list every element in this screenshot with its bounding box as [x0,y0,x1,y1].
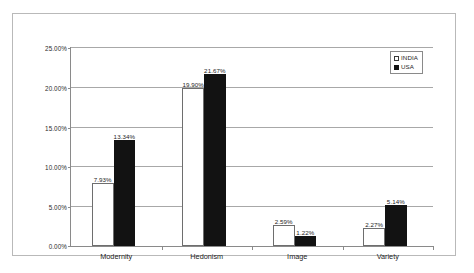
bar-usa-variety[interactable]: 5.14% [385,205,407,246]
ytick-label-5: 5.00% [49,204,67,211]
bars-layer: 7.93% 13.34% Modernity 19.90% 21.67% Hed… [71,47,433,246]
bar-india-modernity[interactable]: 7.93% [92,183,114,246]
ytick-label-20: 20.00% [45,84,67,91]
ytick-mark-0 [68,246,71,247]
xtick-mark-image [343,246,344,250]
legend-item-india[interactable]: INDIA [394,55,418,61]
ytick-label-25: 25.00% [45,45,67,52]
legend-swatch-usa-icon [394,65,399,70]
bar-india-image[interactable]: 2.59% [273,225,295,246]
bar-label-usa-image: 1.22% [296,229,314,236]
ytick-label-0: 0.00% [49,243,67,250]
legend-item-usa[interactable]: USA [394,64,418,70]
bar-india-hedonism[interactable]: 19.90% [182,88,204,246]
bar-group-hedonism: 19.90% 21.67% Hedonism [162,47,253,246]
bar-group-image: 2.59% 1.22% Image [252,47,343,246]
xtick-label-image: Image [287,252,307,261]
bar-usa-modernity[interactable]: 13.34% [114,140,136,246]
bar-label-usa-modernity: 13.34% [114,133,136,140]
xtick-label-variety: Variety [377,252,399,261]
bar-label-india-modernity: 7.93% [94,176,112,183]
bar-label-india-hedonism: 19.90% [182,81,204,88]
bar-label-india-variety: 2.27% [365,221,383,228]
bar-india-variety[interactable]: 2.27% [363,228,385,246]
bar-usa-hedonism[interactable]: 21.67% [204,74,226,246]
chart-frame: 25.00% 20.00% 15.00% 10.00% 5.00% 0.00% [12,13,456,256]
ytick-label-10: 10.00% [45,164,67,171]
bar-label-usa-variety: 5.14% [387,198,405,205]
legend-label-usa: USA [401,64,414,70]
bar-label-usa-hedonism: 21.67% [204,67,226,74]
xtick-label-hedonism: Hedonism [190,252,223,261]
legend-label-india: INDIA [401,55,418,61]
xtick-mark-variety [433,246,434,250]
xtick-mark-hedonism [252,246,253,250]
bar-group-modernity: 7.93% 13.34% Modernity [71,47,162,246]
chart-legend[interactable]: INDIA USA [390,51,423,74]
legend-swatch-india-icon [394,56,399,61]
xtick-label-modernity: Modernity [100,252,132,261]
ytick-label-15: 15.00% [45,124,67,131]
bar-group-variety: 2.27% 5.14% Variety [343,47,434,246]
bar-label-india-image: 2.59% [275,218,293,225]
bar-usa-image[interactable]: 1.22% [295,236,317,246]
plot-area: 25.00% 20.00% 15.00% 10.00% 5.00% 0.00% [70,47,433,247]
xtick-mark-modernity [162,246,163,250]
